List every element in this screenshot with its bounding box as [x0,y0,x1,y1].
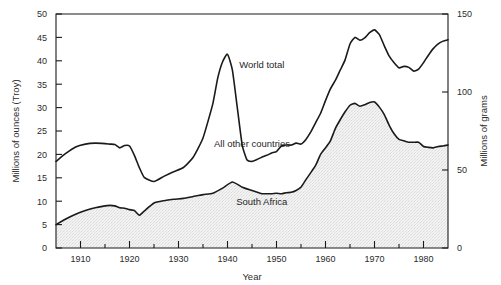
ytick-label-left-10: 10 [37,197,47,207]
x-axis-title: Year [242,271,261,282]
xtick-label-1930: 1930 [168,254,188,264]
xtick-label-1980: 1980 [413,254,433,264]
ytick-label-left-30: 30 [37,103,47,113]
xtick-label-1920: 1920 [119,254,139,264]
annotation-all-other-countries: All other countries [214,138,290,149]
gold-production-chart: 0510152025303540455005010015019101920193… [0,0,501,285]
xtick-label-1910: 1910 [70,254,90,264]
ytick-label-right-100: 100 [457,87,472,97]
ytick-label-right-150: 150 [457,9,472,19]
y-axis-right-title: Millions of grams [478,95,489,167]
ytick-label-right-50: 50 [457,165,467,175]
ytick-label-left-20: 20 [37,150,47,160]
ytick-label-left-40: 40 [37,56,47,66]
ytick-label-left-5: 5 [42,220,47,230]
ytick-label-right-0: 0 [457,243,462,253]
annotation-world-total: World total [239,59,284,70]
ytick-label-left-25: 25 [37,126,47,136]
y-axis-left-title: Millions of ounces (Troy) [10,79,21,182]
ytick-label-left-0: 0 [42,243,47,253]
ytick-label-left-35: 35 [37,80,47,90]
ytick-label-left-15: 15 [37,173,47,183]
annotation-south-africa: South Africa [236,196,288,207]
xtick-label-1970: 1970 [364,254,384,264]
xtick-label-1950: 1950 [266,254,286,264]
ytick-label-left-45: 45 [37,33,47,43]
xtick-label-1960: 1960 [315,254,335,264]
ytick-label-left-50: 50 [37,9,47,19]
xtick-label-1940: 1940 [217,254,237,264]
